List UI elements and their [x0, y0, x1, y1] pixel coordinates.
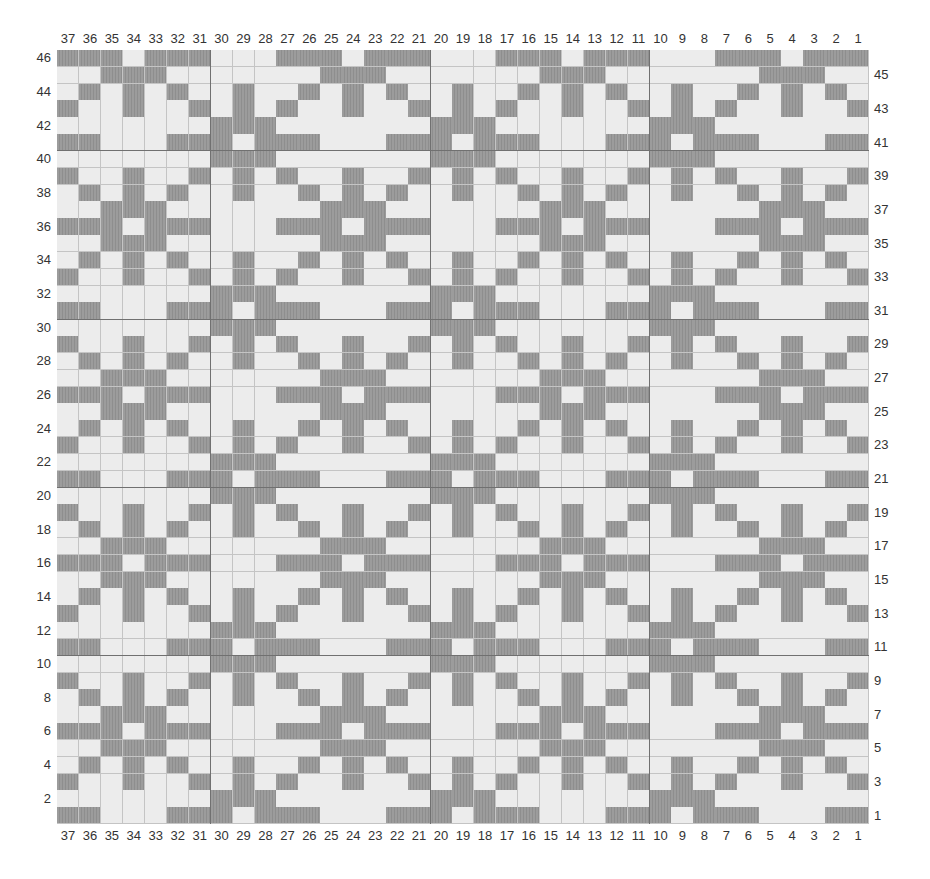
stitch-cell	[628, 807, 650, 824]
stitch-cell	[255, 673, 277, 690]
stitch-cell	[606, 622, 628, 639]
stitch-cell	[430, 689, 452, 706]
stitch-cell	[342, 706, 364, 723]
stitch-cell	[518, 774, 540, 791]
stitch-cell	[211, 117, 233, 134]
stitch-cell	[167, 252, 189, 269]
stitch-cell	[189, 538, 211, 555]
stitch-cell	[803, 100, 825, 117]
stitch-cell	[584, 605, 606, 622]
stitch-cell	[320, 387, 342, 404]
stitch-cell	[167, 723, 189, 740]
stitch-cell	[408, 201, 430, 218]
stitch-cell	[408, 673, 430, 690]
stitch-cell	[123, 487, 145, 504]
stitch-cell	[496, 555, 518, 572]
stitch-cell	[233, 538, 255, 555]
stitch-cell	[781, 757, 803, 774]
stitch-cell	[781, 437, 803, 454]
stitch-cell	[276, 336, 298, 353]
stitch-cell	[167, 286, 189, 303]
stitch-cell	[715, 673, 737, 690]
stitch-cell	[781, 740, 803, 757]
stitch-cell	[320, 353, 342, 370]
stitch-cell	[737, 757, 759, 774]
stitch-cell	[628, 218, 650, 235]
stitch-cell	[737, 538, 759, 555]
stitch-cell	[79, 185, 101, 202]
stitch-cell	[298, 319, 320, 336]
stitch-cell	[803, 134, 825, 151]
stitch-cell	[584, 134, 606, 151]
stitch-cell	[825, 723, 847, 740]
stitch-cell	[233, 302, 255, 319]
stitch-cell	[408, 151, 430, 168]
column-label-top: 19	[452, 32, 474, 46]
stitch-cell	[211, 50, 233, 67]
stitch-cell	[57, 588, 79, 605]
stitch-cell	[298, 774, 320, 791]
stitch-cell	[474, 252, 496, 269]
row-label-left: 20	[11, 489, 51, 503]
stitch-cell	[79, 622, 101, 639]
stitch-cell	[628, 689, 650, 706]
stitch-cell	[496, 454, 518, 471]
stitch-cell	[737, 588, 759, 605]
stitch-cell	[825, 134, 847, 151]
stitch-cell	[145, 706, 167, 723]
stitch-cell	[715, 218, 737, 235]
stitch-cell	[342, 185, 364, 202]
stitch-cell	[364, 387, 386, 404]
stitch-cell	[342, 588, 364, 605]
stitch-cell	[79, 504, 101, 521]
stitch-cell	[759, 656, 781, 673]
stitch-cell	[79, 471, 101, 488]
stitch-cell	[57, 387, 79, 404]
stitch-cell	[628, 387, 650, 404]
stitch-cell	[123, 471, 145, 488]
stitch-cell	[803, 50, 825, 67]
stitch-cell	[518, 656, 540, 673]
column-label-bottom: 16	[518, 829, 540, 843]
stitch-cell	[386, 605, 408, 622]
stitch-cell	[759, 622, 781, 639]
stitch-cell	[496, 302, 518, 319]
stitch-cell	[825, 555, 847, 572]
stitch-cell	[693, 437, 715, 454]
stitch-cell	[189, 218, 211, 235]
stitch-cell	[386, 117, 408, 134]
stitch-cell	[540, 521, 562, 538]
stitch-cell	[408, 723, 430, 740]
stitch-cell	[540, 673, 562, 690]
stitch-cell	[57, 420, 79, 437]
stitch-cell	[496, 353, 518, 370]
stitch-cell	[145, 740, 167, 757]
stitch-cell	[386, 50, 408, 67]
stitch-cell	[233, 387, 255, 404]
stitch-cell	[474, 302, 496, 319]
stitch-cell	[781, 370, 803, 387]
stitch-cell	[79, 134, 101, 151]
stitch-cell	[57, 723, 79, 740]
stitch-cell	[847, 67, 869, 84]
row-label-right: 37	[874, 203, 904, 217]
stitch-cell	[57, 370, 79, 387]
stitch-cell	[737, 454, 759, 471]
stitch-cell	[364, 572, 386, 589]
stitch-cell	[408, 319, 430, 336]
stitch-cell	[847, 555, 869, 572]
stitch-cell	[759, 605, 781, 622]
stitch-cell	[211, 336, 233, 353]
stitch-cell	[781, 622, 803, 639]
stitch-cell	[671, 269, 693, 286]
stitch-cell	[584, 387, 606, 404]
stitch-cell	[803, 67, 825, 84]
stitch-cell	[737, 740, 759, 757]
stitch-cell	[737, 437, 759, 454]
stitch-cell	[562, 370, 584, 387]
stitch-cell	[606, 100, 628, 117]
column-label-top: 35	[101, 32, 123, 46]
stitch-cell	[562, 336, 584, 353]
stitch-cell	[825, 639, 847, 656]
column-label-top: 33	[145, 32, 167, 46]
